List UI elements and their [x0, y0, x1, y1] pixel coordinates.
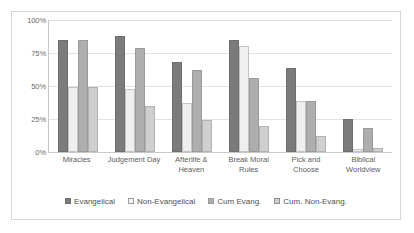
bar-group	[221, 20, 278, 152]
x-axis-tick-label: Break Moral Rules	[220, 155, 277, 189]
y-axis: 0%25%50%75%100%	[16, 20, 46, 152]
y-axis-tick-label: 25%	[31, 115, 46, 124]
bar[interactable]	[202, 120, 212, 152]
plot-wrapper: 0%25%50%75%100% MiraclesJudgement DayAft…	[12, 12, 400, 219]
bar[interactable]	[192, 70, 202, 152]
bar[interactable]	[182, 103, 192, 152]
bar[interactable]	[115, 36, 125, 152]
bar[interactable]	[316, 136, 326, 152]
y-axis-tick-label: 100%	[27, 16, 46, 25]
legend-item[interactable]: Non-Evangelical	[128, 197, 195, 206]
legend-swatch-icon	[65, 198, 71, 204]
x-axis: MiraclesJudgement DayAfterlife & HeavenB…	[48, 155, 392, 189]
bar[interactable]	[172, 62, 182, 152]
y-axis-tick-label: 75%	[31, 49, 46, 58]
legend-label: Evangelical	[74, 197, 115, 206]
bar[interactable]	[259, 126, 269, 152]
bar[interactable]	[125, 89, 135, 152]
legend-item[interactable]: Cum. Non-Evang.	[274, 197, 347, 206]
bar[interactable]	[78, 40, 88, 152]
x-axis-tick-label: Miracles	[48, 155, 105, 189]
bar[interactable]	[373, 148, 383, 152]
bar-group	[49, 20, 106, 152]
bar[interactable]	[145, 106, 155, 152]
chart-container: 0%25%50%75%100% MiraclesJudgement DayAft…	[11, 11, 401, 220]
bar[interactable]	[88, 87, 98, 152]
x-axis-tick-label: Biblical Worldview	[335, 155, 392, 189]
bar[interactable]	[363, 128, 373, 152]
x-axis-tick-label: Judgement Day	[105, 155, 162, 189]
bar[interactable]	[249, 78, 259, 152]
bar[interactable]	[58, 40, 68, 152]
bar-group	[163, 20, 220, 152]
bar-group	[106, 20, 163, 152]
bar[interactable]	[229, 40, 239, 152]
bar[interactable]	[343, 119, 353, 152]
bar[interactable]	[296, 101, 306, 152]
bar[interactable]	[353, 149, 363, 152]
bar-group	[278, 20, 335, 152]
legend-item[interactable]: Evangelical	[65, 197, 115, 206]
legend-label: Cum Evang.	[217, 197, 261, 206]
y-axis-tick-label: 50%	[31, 82, 46, 91]
y-axis-tick-label: 0%	[35, 148, 46, 157]
bars-layer	[49, 20, 392, 152]
bar[interactable]	[306, 101, 316, 152]
legend-swatch-icon	[128, 198, 134, 204]
bar[interactable]	[239, 46, 249, 152]
plot-area	[48, 20, 392, 153]
chart-legend: EvangelicalNon-EvangelicalCum Evang.Cum.…	[12, 194, 400, 208]
legend-item[interactable]: Cum Evang.	[208, 197, 261, 206]
x-axis-tick-label: Pick and Choose	[277, 155, 334, 189]
legend-label: Cum. Non-Evang.	[283, 197, 347, 206]
legend-label: Non-Evangelical	[137, 197, 195, 206]
legend-swatch-icon	[208, 198, 214, 204]
x-axis-tick-label: Afterlife & Heaven	[163, 155, 220, 189]
bar[interactable]	[286, 68, 296, 152]
bar[interactable]	[68, 87, 78, 152]
bar-group	[335, 20, 392, 152]
legend-swatch-icon	[274, 198, 280, 204]
bar[interactable]	[135, 48, 145, 152]
